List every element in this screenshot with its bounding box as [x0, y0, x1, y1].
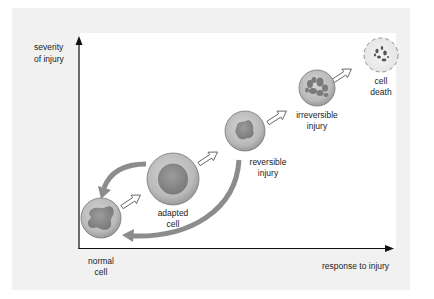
stage-label-irreversible: irreversible injury	[293, 110, 341, 132]
stage-label-death: cell death	[368, 76, 394, 98]
arrow-up-icon	[76, 36, 83, 45]
adapted-cell-icon	[147, 153, 199, 205]
cell-death-icon	[364, 38, 398, 72]
progress-arrow-normal-to-adapted	[119, 191, 143, 211]
stage-label-adapted: adapted cell	[155, 208, 191, 230]
cell-injury-diagram	[0, 0, 434, 299]
reversible-injury-cell-icon	[225, 111, 265, 151]
progress-arrow-adapted-to-reversible	[196, 148, 220, 168]
normal-cell-icon	[81, 198, 121, 238]
progress-arrow-reversible-to-irreversible	[265, 107, 289, 127]
arrow-right-icon	[385, 245, 394, 252]
x-axis	[79, 245, 395, 252]
stage-label-reversible: reversible injury	[246, 157, 290, 179]
y-axis-label: severity of injury	[34, 41, 64, 65]
stage-label-normal: normal cell	[84, 256, 118, 278]
return-arrow-adapted-to-normal	[98, 164, 146, 199]
x-axis-label: response to injury	[322, 260, 389, 272]
irreversible-injury-cell-icon	[299, 70, 335, 106]
